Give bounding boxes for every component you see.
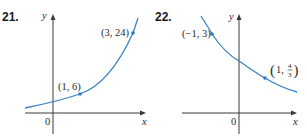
paren-open: ( [270,62,275,79]
point-label: (3, 24) [101,27,129,39]
graph-21-plot: (1, 6) (3, 24) y x 0 [0,0,150,136]
data-point [131,31,135,35]
data-point [78,92,82,96]
x-axis-arrow-icon [140,111,146,116]
graph-22: 22. (−1, 3) ( 1, 4 3 ) y x 0 [150,0,307,136]
exponential-curve [201,16,297,92]
origin-label: 0 [231,116,236,127]
x-axis-label: x [292,116,298,127]
point-label-fraction: ( 1, 4 3 ) [270,62,299,79]
y-axis-label: y [228,11,234,22]
fraction-numerator: 4 [288,62,292,70]
paren-close: ) [294,62,299,79]
graph-22-plot: (−1, 3) ( 1, 4 3 ) y x 0 [150,0,307,136]
point-label-prefix: 1, [276,64,284,75]
point-label: (1, 6) [58,81,81,93]
fraction-denominator: 3 [288,71,292,79]
y-axis-arrow-icon [237,14,242,20]
graph-21: 21. (1, 6) (3, 24) y x 0 [0,0,150,136]
x-axis-label: x [141,116,147,127]
data-point [210,32,214,36]
y-axis-label: y [41,10,47,21]
point-label: (−1, 3) [182,28,211,40]
y-axis-arrow-icon [51,14,56,20]
data-point [263,76,267,80]
x-axis-arrow-icon [291,111,297,116]
origin-label: 0 [45,116,50,127]
